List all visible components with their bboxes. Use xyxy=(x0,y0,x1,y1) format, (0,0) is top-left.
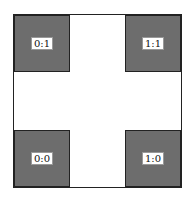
cell-top-left: 0:1 xyxy=(14,15,70,72)
cell-bottom-left: 0:0 xyxy=(14,130,70,187)
cell-label: 1:0 xyxy=(142,152,164,165)
cell-bottom-right: 1:0 xyxy=(125,130,181,187)
cell-label: 0:1 xyxy=(31,37,53,50)
cell-label: 0:0 xyxy=(31,152,53,165)
outer-square: 0:1 1:1 0:0 1:0 xyxy=(13,14,182,188)
cell-label: 1:1 xyxy=(142,37,164,50)
cell-top-right: 1:1 xyxy=(125,15,181,72)
